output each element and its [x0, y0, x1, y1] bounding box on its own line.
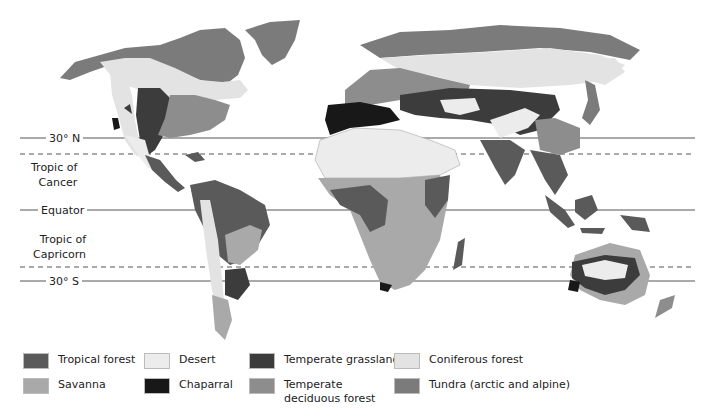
label-tropic-cancer-line2: Cancer — [31, 175, 77, 190]
swatch-temperate-grassland — [249, 353, 275, 369]
region-temperate-grassland-sa — [225, 268, 250, 300]
indonesia — [545, 195, 650, 234]
label-30n: 30° N — [46, 131, 83, 146]
legend-item-temperate-deciduous: Temperate deciduous forest — [249, 378, 394, 406]
south-america — [190, 180, 270, 340]
swatch-chaparral — [144, 378, 170, 394]
region-chaparral — [112, 118, 120, 130]
label-tropic-cancer: Tropic of Cancer — [28, 160, 80, 190]
region-chaparral-australia — [568, 280, 580, 292]
region-temperate-deciduous-nz — [655, 295, 675, 318]
label-equator: Equator — [38, 203, 87, 218]
region-savanna-south — [212, 295, 232, 340]
label-tropic-capricorn: Tropic of Capricorn — [30, 232, 89, 262]
label-30s: 30° S — [46, 274, 82, 289]
legend-label: Temperate deciduous forest — [284, 378, 394, 406]
region-temperate-deciduous — [158, 95, 230, 138]
swatch-tropical-forest — [23, 353, 49, 369]
region-tropical-forest-central — [145, 155, 185, 192]
swatch-savanna — [23, 378, 49, 394]
biome-world-map — [0, 0, 709, 340]
region-temperate-deciduous-china — [535, 118, 580, 155]
legend-item-temperate-grassland: Temperate grassland — [249, 353, 414, 369]
north-america — [60, 20, 300, 192]
region-tropical-forest-sumatra — [545, 195, 575, 228]
label-tropic-capricorn-line1: Tropic of — [33, 232, 86, 247]
region-tropical-forest-borneo — [575, 195, 598, 220]
swatch-temperate-deciduous — [249, 378, 275, 394]
legend-item-coniferous-forest: Coniferous forest — [394, 353, 559, 369]
region-tundra-japan — [582, 80, 600, 125]
legend-item-tundra: Tundra (arctic and alpine) — [394, 378, 629, 394]
region-tropical-forest-newguinea — [620, 215, 650, 232]
label-tropic-cancer-line1: Tropic of — [31, 160, 77, 175]
legend: Tropical forest Desert Temperate grassla… — [0, 340, 709, 416]
swatch-coniferous-forest — [394, 353, 420, 369]
region-tropical-forest-madagascar — [453, 238, 465, 270]
region-tropical-forest-india — [480, 140, 525, 185]
legend-label: Tundra (arctic and alpine) — [429, 378, 629, 392]
region-desert-sahara — [315, 128, 460, 178]
legend-label: Coniferous forest — [429, 353, 559, 367]
swatch-desert — [144, 353, 170, 369]
region-temperate-grassland-asia — [400, 88, 560, 135]
swatch-tundra — [394, 378, 420, 394]
region-tropical-forest-islands — [580, 228, 605, 234]
region-tundra-greenland — [245, 20, 300, 65]
region-tropical-forest-seasia — [530, 150, 568, 195]
label-tropic-capricorn-line2: Capricorn — [33, 247, 86, 262]
